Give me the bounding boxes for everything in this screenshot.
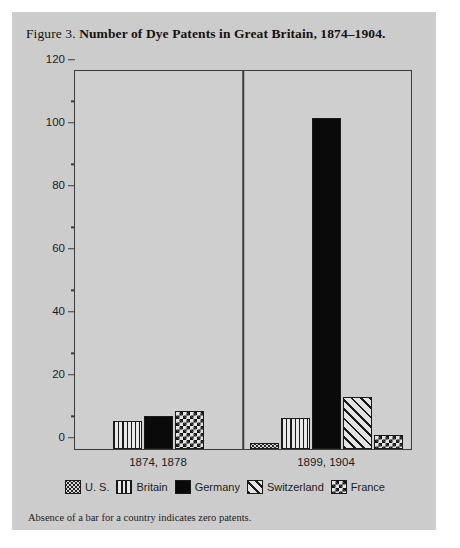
group-divider [242, 71, 244, 449]
y-axis-tick-120: 120 [46, 54, 75, 66]
figure-footnote: Absence of a bar for a country indicates… [28, 512, 251, 523]
checkerboard-swatch-icon [331, 480, 347, 494]
bar-france-0 [175, 411, 204, 449]
diagonal-hatch-swatch-icon [247, 480, 263, 494]
y-axis-minor-tick [71, 290, 76, 291]
x-axis-group-label-1: 1899, 1904 [297, 456, 355, 468]
chart-legend: U. S.BritainGermanySwitzerlandFrance [26, 480, 424, 494]
y-axis-tick-20: 20 [52, 369, 75, 381]
y-axis-tick-mark [68, 122, 75, 123]
y-axis-minor-tick [71, 416, 76, 417]
y-axis-minor-tick [71, 353, 76, 354]
legend-item-germany: Germany [175, 480, 240, 494]
legend-item-france: France [331, 480, 385, 494]
legend-item-switzerland: Switzerland [247, 480, 324, 494]
x-axis-group-label-0: 1874, 1878 [129, 456, 187, 468]
y-axis-tick-label: 80 [52, 180, 68, 192]
y-axis-tick-label: 20 [52, 369, 68, 381]
y-axis-minor-tick [71, 227, 76, 228]
bar-britain-0 [113, 421, 142, 449]
bar-britain-1 [281, 418, 310, 450]
y-axis-tick-mark [68, 185, 75, 186]
y-axis-tick-0: 0 [59, 432, 75, 444]
figure-caption: Figure 3. Number of Dye Patents in Great… [26, 26, 426, 42]
y-axis-tick-label: 100 [46, 117, 68, 129]
legend-item-label: U. S. [85, 481, 109, 493]
y-axis-tick-mark [68, 374, 75, 375]
bar-france-1 [374, 435, 403, 449]
chart-plot-area: 020406080100120 1874, 18781899, 1904 [26, 58, 424, 474]
y-axis-tick-label: 40 [52, 306, 68, 318]
page-title: Number of Dye Patents in Great Britain, … [79, 26, 385, 41]
legend-item-britain: Britain [116, 480, 167, 494]
legend-item-label: Britain [136, 481, 167, 493]
y-axis-minor-tick [71, 101, 76, 102]
y-axis-tick-40: 40 [52, 306, 75, 318]
y-axis-tick-mark [68, 311, 75, 312]
legend-item-label: Germany [195, 481, 240, 493]
y-axis-tick-label: 120 [46, 54, 68, 66]
legend-item-us: U. S. [65, 480, 109, 494]
solid-black-swatch-icon [175, 480, 191, 494]
y-axis-tick-mark [68, 437, 75, 438]
bar-germany-0 [144, 416, 173, 449]
legend-item-label: France [351, 481, 385, 493]
bar-switzerland-1 [343, 397, 372, 449]
y-axis-minor-tick [71, 164, 76, 165]
y-axis-tick-label: 0 [59, 432, 68, 444]
figure-panel: Figure 3. Number of Dye Patents in Great… [12, 12, 436, 530]
y-axis-tick-80: 80 [52, 180, 75, 192]
y-axis-tick-100: 100 [46, 117, 75, 129]
figure-label: Figure 3. [26, 26, 76, 41]
bar-us-1 [250, 443, 279, 449]
y-axis-tick-mark [68, 59, 75, 60]
y-axis-tick-label: 60 [52, 243, 68, 255]
y-axis-tick-mark [68, 248, 75, 249]
y-axis-tick-60: 60 [52, 243, 75, 255]
bar-germany-1 [312, 118, 341, 449]
dotted-swatch-icon [65, 480, 81, 494]
vertical-lines-swatch-icon [116, 480, 132, 494]
legend-item-label: Switzerland [267, 481, 324, 493]
plot-frame: 020406080100120 [74, 70, 412, 450]
